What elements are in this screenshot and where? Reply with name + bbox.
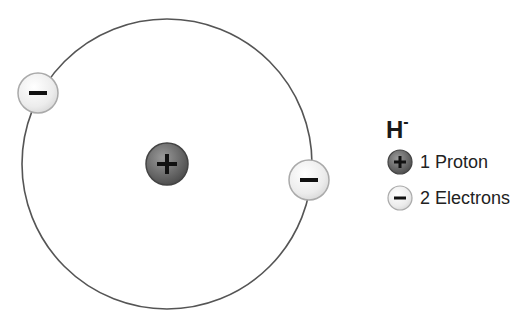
species-charge: - (403, 113, 408, 130)
species-symbol: H (386, 116, 403, 143)
legend-label: 1 Proton (420, 152, 488, 173)
legend-item-proton: 1 Proton (386, 144, 510, 180)
electron-2 (289, 160, 329, 200)
nucleus-proton (146, 143, 188, 185)
legend-item-electron: 2 Electrons (386, 180, 510, 216)
electron-1 (18, 73, 58, 113)
species-title: H- (386, 110, 510, 144)
proton-icon (386, 148, 414, 176)
electron-icon (386, 184, 414, 212)
legend-label: 2 Electrons (420, 188, 510, 209)
legend: H- 1 Proton 2 Electrons (386, 110, 510, 216)
